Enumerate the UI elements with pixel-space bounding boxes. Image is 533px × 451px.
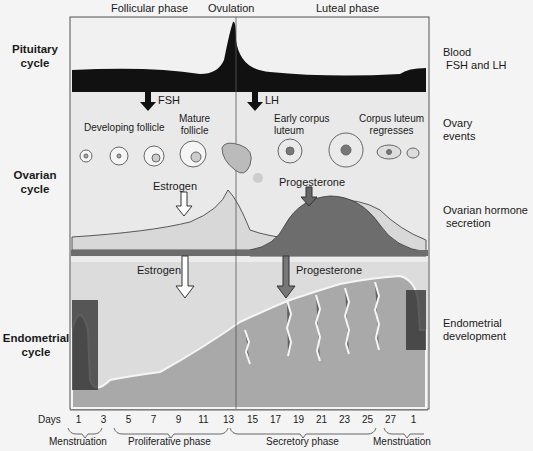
blood-fsh-lh-label: BloodFSH and LH — [443, 46, 507, 72]
lh-label: LH — [265, 94, 279, 107]
pituitary-cycle-label: Pituitarycycle — [2, 42, 68, 70]
ovarian-cycle-label: Ovariancycle — [2, 168, 68, 196]
developing-follicle-label: Developing follicle — [84, 122, 165, 134]
corpus-luteum-regresses-label: Corpus luteumregresses — [359, 113, 424, 137]
endometrial-cycle-label: Endometrialcycle — [0, 331, 72, 359]
progesterone-endo-label: Progesterone — [296, 264, 362, 277]
days-label: Days — [38, 414, 61, 426]
proliferative-phase: Proliferative phase — [128, 436, 211, 448]
follicular-phase-label: Follicular phase — [111, 2, 188, 15]
secretory-phase: Secretory phase — [266, 436, 339, 448]
endometrial-development-label: Endometrialdevelopment — [443, 317, 506, 343]
mature-follicle-label: Maturefollicle — [179, 113, 210, 137]
early-corpus-luteum-label: Early corpusluteum — [274, 113, 330, 137]
menstruation-phase-2: Menstruation — [373, 436, 431, 448]
ovulation-label: Ovulation — [208, 2, 254, 15]
estrogen-ovary-label: Estrogen — [153, 180, 197, 193]
progesterone-ovary-label: Progesterone — [279, 176, 345, 189]
day-ticks: 1 3 5 7 9 11 13 15 17 19 21 23 25 27 1 — [66, 414, 436, 426]
luteal-phase-label: Luteal phase — [316, 2, 379, 15]
ovary-events-label: Ovaryevents — [443, 117, 475, 143]
estrogen-endo-label: Estrogen — [137, 264, 181, 277]
fsh-label: FSH — [158, 94, 180, 107]
ovarian-hormone-label: Ovarian hormonesecretion — [443, 204, 528, 230]
menstruation-phase-1: Menstruation — [49, 436, 107, 448]
